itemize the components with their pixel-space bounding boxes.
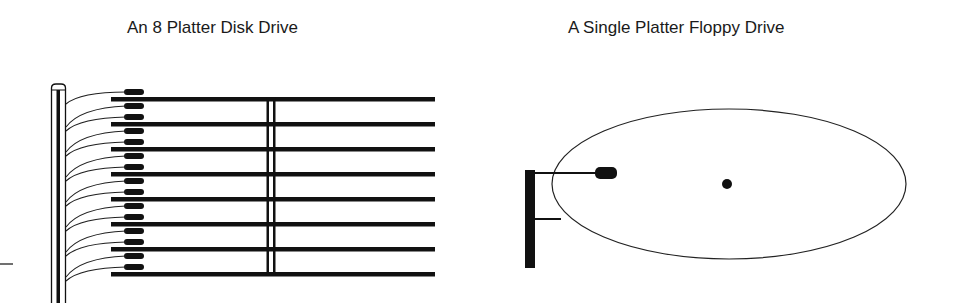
read-write-heads [124, 89, 144, 270]
floppy-spindle [722, 179, 732, 189]
actuator-post [52, 84, 66, 303]
disk-drive-diagram [52, 84, 436, 303]
floppy-drive-diagram [525, 109, 906, 268]
floppy-read-write-head [595, 167, 617, 179]
floppy-actuator-post [525, 170, 535, 268]
drive-diagrams [0, 0, 957, 307]
actuator-arms [66, 92, 126, 281]
